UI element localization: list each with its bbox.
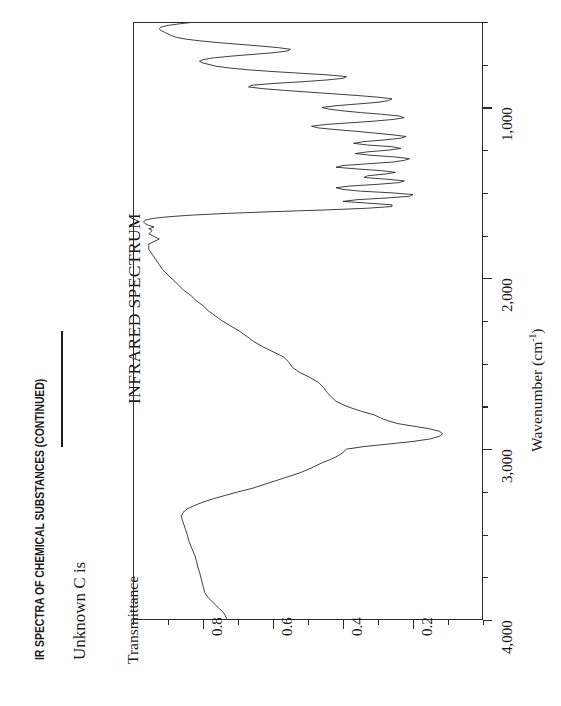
answer-blank-rule bbox=[61, 331, 63, 447]
y-axis-major-tick bbox=[343, 620, 344, 629]
x-axis-major-tick bbox=[483, 449, 492, 450]
y-axis-minor-tick bbox=[378, 620, 379, 625]
x-axis-minor-tick bbox=[483, 65, 488, 66]
x-axis-minor-tick bbox=[483, 364, 488, 365]
y-axis-major-tick bbox=[413, 620, 414, 629]
question-prompt: Unknown C is bbox=[70, 562, 90, 660]
x-axis-minor-tick bbox=[483, 406, 488, 407]
x-axis-title: Wavenumber (cm-1) bbox=[528, 329, 546, 452]
x-axis-minor-tick bbox=[483, 577, 488, 578]
y-axis-tick-label: 0.8 bbox=[209, 617, 226, 636]
x-axis-minor-tick bbox=[483, 236, 488, 237]
x-axis-minor-tick bbox=[483, 535, 488, 536]
x-axis-minor-tick bbox=[483, 321, 488, 322]
y-axis-minor-tick bbox=[133, 620, 134, 625]
y-axis-tick-label: 0.6 bbox=[279, 617, 296, 636]
x-axis-minor-tick bbox=[483, 193, 488, 194]
y-axis-minor-tick bbox=[483, 620, 484, 625]
y-axis-tick-label: 0.2 bbox=[419, 617, 436, 636]
y-axis-tick-label: 0.4 bbox=[349, 617, 366, 636]
x-axis-minor-tick bbox=[483, 22, 488, 23]
x-axis-tick-label: 1,000 bbox=[499, 108, 516, 142]
x-axis-tick-label: 2,000 bbox=[499, 279, 516, 313]
x-axis-major-tick bbox=[483, 107, 492, 108]
x-axis-major-tick bbox=[483, 278, 492, 279]
x-axis-title-main: Wavenumber (cm bbox=[528, 342, 545, 452]
x-axis-major-tick bbox=[483, 620, 492, 621]
y-axis-minor-tick bbox=[448, 620, 449, 625]
x-axis-minor-tick bbox=[483, 492, 488, 493]
spectrum-curve bbox=[133, 22, 483, 620]
y-axis-minor-tick bbox=[308, 620, 309, 625]
x-axis-minor-tick bbox=[483, 150, 488, 151]
y-axis-major-tick bbox=[203, 620, 204, 629]
y-axis-minor-tick bbox=[168, 620, 169, 625]
y-axis-minor-tick bbox=[238, 620, 239, 625]
x-axis-title-close: ) bbox=[528, 329, 545, 334]
x-axis-tick-label: 3,000 bbox=[499, 449, 516, 483]
x-axis-tick-label: 4,000 bbox=[499, 620, 516, 654]
page-header-title: IR SPECTRA OF CHEMICAL SUBSTANCES (CONTI… bbox=[32, 379, 46, 660]
x-axis-title-exponent: -1 bbox=[528, 334, 538, 342]
figure-page: IR SPECTRA OF CHEMICAL SUBSTANCES (CONTI… bbox=[0, 0, 561, 706]
y-axis-major-tick bbox=[273, 620, 274, 629]
